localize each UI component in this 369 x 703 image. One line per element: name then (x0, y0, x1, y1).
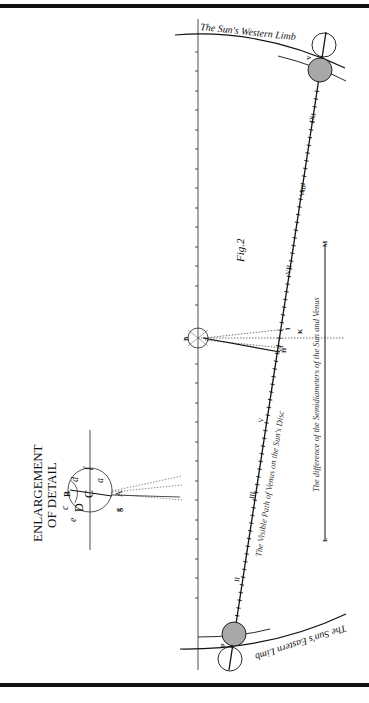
venus-disc-ingress-inner (222, 622, 246, 646)
venus-disc-egress-inner (308, 58, 332, 82)
detail-label-f: f (82, 466, 93, 470)
hour-mark-viii: VIII (298, 184, 308, 198)
detail-label-a: a (94, 478, 105, 483)
point-label-k: K (296, 329, 303, 334)
venus-path-label: The Visible Path of Venus on the Sun's D… (253, 410, 286, 558)
construction-lines (198, 329, 345, 348)
point-label-p: p (218, 643, 225, 647)
enlargement-title-line2: OF DETAIL (44, 462, 59, 528)
detail-label-A: A (114, 490, 124, 497)
western-limb-label: The Sun's Western Limb (200, 21, 297, 42)
point-label-b: B (182, 336, 189, 341)
hour-mark-ii: II (233, 576, 242, 583)
detail-label-e: e (67, 517, 78, 522)
hour-mark-ix: IX (308, 115, 317, 124)
solid-ray-bh (203, 338, 280, 352)
detail-label-c: c (59, 505, 70, 510)
detail-label-B: B (62, 491, 72, 497)
top-border (0, 4, 369, 8)
reference-axis (195, 19, 198, 670)
detail-label-g: g (114, 508, 123, 512)
point-label-m: M (321, 241, 328, 247)
detail-label-d: d (69, 476, 80, 482)
semidiameter-label: The difference of the Semidiameters of t… (311, 296, 321, 492)
figure-title: Fig.2 (234, 238, 246, 263)
point-label-i: I (284, 327, 291, 330)
point-label-h: H (280, 348, 287, 353)
hour-mark-v: V (257, 417, 266, 423)
enlargement-title-line1: ENLARGEMENT (30, 444, 45, 542)
bottom-border (0, 683, 369, 687)
transit-of-venus-diagram: The Sun's Western Limb The Sun's Eastern… (0, 0, 369, 703)
detail-label-C: C (82, 490, 96, 498)
point-label-v: V (305, 55, 312, 60)
hour-mark-vii: VII (284, 264, 294, 276)
detail-label-D: D (72, 503, 86, 512)
point-label-l: L (321, 537, 328, 542)
